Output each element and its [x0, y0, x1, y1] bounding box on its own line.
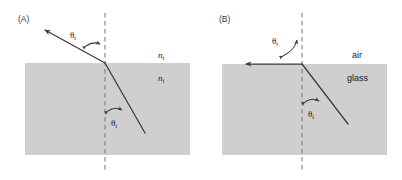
panel-b-medium-upper-label: air: [352, 50, 362, 60]
refraction-figure: (A) θt θi nt ni (B) θt θi air glass: [0, 0, 402, 180]
panel-a-dense-medium-slab: [25, 63, 190, 155]
panel-b-medium-lower-label: glass: [347, 73, 369, 83]
panel-b-label: (B): [219, 14, 231, 24]
panel-a-label: (A): [18, 14, 30, 24]
